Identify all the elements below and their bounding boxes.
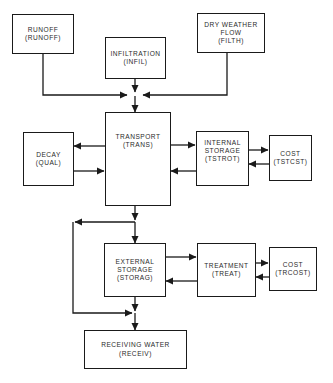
node-transport: TRANSPORT (TRANS)	[105, 112, 171, 206]
node-infiltration: INFILTRATION (INFIL)	[105, 37, 166, 79]
node-treatment: TREATMENT (TREAT)	[197, 243, 256, 297]
node-treatment-line2: (TREAT)	[212, 270, 241, 278]
node-cost-trcost: COST (TRCOST)	[269, 247, 317, 291]
node-cost-tstcst-line2: (TSTCST)	[273, 158, 307, 166]
node-internal-line1: INTERNAL	[204, 139, 241, 147]
node-runoff: RUNOFF (RUNOFF)	[12, 14, 74, 54]
node-cost-tstcst-line1: COST	[280, 150, 300, 158]
node-dwf-line1: DRY WEATHER	[204, 21, 258, 29]
node-receiving-water: RECEIVING WATER (RECEIV)	[84, 330, 187, 369]
node-cost-trcost-line1: COST	[283, 261, 303, 269]
flow-diagram: RUNOFF (RUNOFF) INFILTRATION (INFIL) DRY…	[0, 0, 333, 383]
node-dwf-line2: FLOW	[220, 29, 241, 37]
node-external-storage: EXTERNAL STORAGE (STORAG)	[104, 243, 166, 297]
node-dry-weather-flow: DRY WEATHER FLOW (FILTH)	[197, 13, 265, 53]
node-receiving-line1: RECEIVING WATER	[101, 341, 170, 349]
node-receiving-line2: (RECEIV)	[119, 350, 152, 358]
node-decay: DECAY (QUAL)	[23, 132, 74, 186]
node-cost-trcost-line2: (TRCOST)	[275, 269, 311, 277]
node-decay-line2: (QUAL)	[36, 159, 61, 167]
node-infiltration-line2: (INFIL)	[123, 58, 147, 66]
node-treatment-line1: TREATMENT	[204, 262, 248, 270]
node-dwf-line3: (FILTH)	[218, 37, 244, 45]
node-external-line3: (STORAG)	[117, 274, 153, 282]
node-external-line2: STORAGE	[117, 266, 153, 274]
node-internal-storage: INTERNAL STORAGE (TSTROT)	[196, 131, 249, 186]
node-transport-line2: (TRANS)	[123, 141, 153, 149]
node-external-line1: EXTERNAL	[116, 258, 155, 266]
node-cost-tstcst: COST (TSTCST)	[269, 135, 312, 181]
node-runoff-line2: (RUNOFF)	[25, 34, 61, 42]
node-internal-line2: STORAGE	[205, 147, 241, 155]
node-runoff-line1: RUNOFF	[28, 26, 58, 34]
node-decay-line1: DECAY	[36, 151, 61, 159]
node-internal-line3: (TSTROT)	[205, 155, 240, 163]
node-infiltration-line1: INFILTRATION	[110, 50, 160, 58]
node-transport-line1: TRANSPORT	[115, 133, 160, 141]
